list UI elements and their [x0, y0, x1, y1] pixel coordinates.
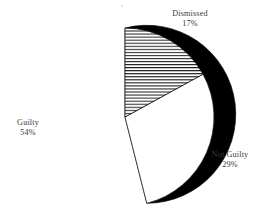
pie-label-guilty-percent: 54% [4, 128, 52, 138]
page-speck [121, 5, 123, 7]
pie-label-not-guilty: Not Guilty 29% [192, 150, 268, 170]
pie-label-dismissed: Dismissed 17% [140, 9, 240, 29]
pie-label-not-guilty-percent: 29% [192, 160, 268, 170]
pie-label-not-guilty-name: Not Guilty [192, 150, 268, 160]
pie-label-dismissed-percent: 17% [140, 19, 240, 29]
pie-label-guilty: Guilty 54% [4, 118, 52, 138]
pie-chart-canvas [0, 0, 271, 215]
pie-label-guilty-name: Guilty [4, 118, 52, 128]
pie-chart-figure: Dismissed 17% Not Guilty 29% Guilty 54% [0, 0, 271, 215]
pie-label-dismissed-name: Dismissed [140, 9, 240, 19]
